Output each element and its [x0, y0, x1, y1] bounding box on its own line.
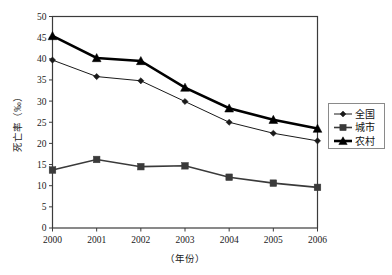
y-tick-label: 20 — [37, 139, 47, 149]
mortality-rate-line-chart: 05101520253035404550 2000200120022003200… — [0, 0, 392, 275]
y-tick-label: 40 — [37, 54, 47, 64]
data-point-square — [49, 167, 56, 174]
data-point-square — [182, 163, 189, 170]
x-tick-label: 2004 — [220, 235, 239, 245]
y-tick-label: 0 — [42, 223, 47, 233]
y-tick-label: 45 — [37, 33, 47, 43]
chart-container: 05101520253035404550 2000200120022003200… — [0, 0, 392, 275]
data-point-square — [138, 163, 145, 170]
data-point-square — [270, 180, 277, 187]
y-axis-title-text: 死亡率（‰） — [12, 92, 23, 152]
y-tick-label: 50 — [37, 12, 47, 22]
y-tick-label: 35 — [37, 75, 47, 85]
x-tick-label: 2000 — [43, 235, 62, 245]
legend-item-label: 城市 — [355, 121, 375, 133]
legend-entries[interactable]: 全国城市农村 — [334, 108, 375, 147]
legend-item-label: 全国 — [355, 108, 375, 120]
data-point-square — [226, 174, 233, 181]
y-axis-title: 死亡率（‰） — [12, 92, 23, 152]
x-tick-label: 2006 — [308, 235, 327, 245]
data-point-square — [93, 156, 100, 163]
x-tick-label: 2001 — [87, 235, 106, 245]
y-tick-label: 25 — [37, 118, 47, 128]
legend-item-label: 农村 — [355, 135, 375, 147]
x-axis-title-text: （年份） — [165, 253, 205, 264]
data-point-square — [314, 184, 321, 191]
y-tick-label: 10 — [37, 181, 47, 191]
y-tick-label: 30 — [37, 97, 47, 107]
x-tick-label: 2005 — [264, 235, 283, 245]
x-tick-label: 2002 — [131, 235, 150, 245]
y-tick-label: 15 — [37, 160, 47, 170]
data-point-square — [340, 124, 346, 130]
legend[interactable]: 全国城市农村 — [329, 104, 385, 149]
x-tick-label: 2003 — [176, 235, 195, 245]
y-tick-label: 5 — [42, 202, 47, 212]
